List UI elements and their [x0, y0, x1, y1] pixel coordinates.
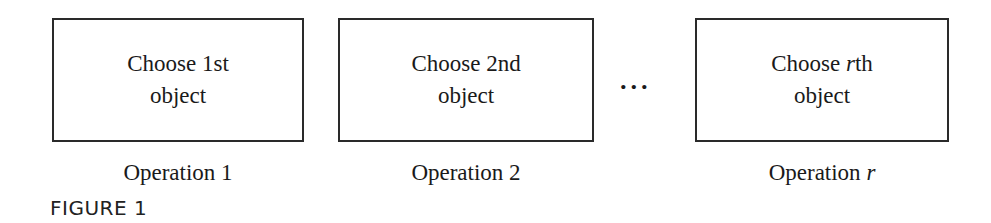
box-line-2: object — [438, 80, 494, 112]
operation-1-box: Choose 1st object — [52, 18, 304, 142]
box-line-1: Choose rth — [771, 48, 873, 80]
ellipsis: ... — [621, 66, 653, 96]
figure-caption: FIGURE 1 — [50, 196, 147, 220]
box-line-2: object — [794, 80, 850, 112]
operation-r-box: Choose rth object — [695, 18, 949, 142]
operation-r-label: Operation r — [692, 160, 952, 186]
operation-1-label: Operation 1 — [48, 160, 308, 186]
box-line-2: object — [150, 80, 206, 112]
box-line-1: Choose 2nd — [411, 48, 520, 80]
box-line-1: Choose 1st — [127, 48, 229, 80]
operation-2-label: Operation 2 — [336, 160, 596, 186]
operation-2-box: Choose 2nd object — [338, 18, 594, 142]
